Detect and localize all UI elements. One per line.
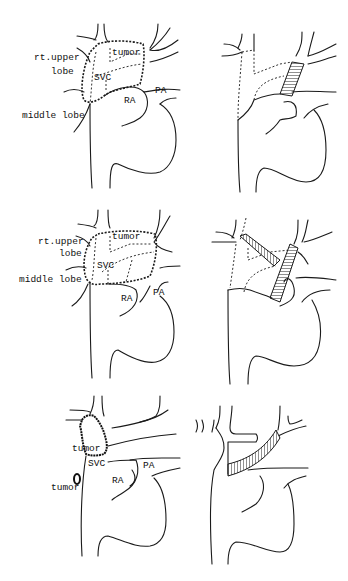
label-svc: SVC — [97, 261, 114, 271]
label-pa: PA — [143, 461, 154, 471]
row3-right-panel — [180, 380, 348, 581]
row1-right-reconstruction-drawing — [180, 0, 348, 200]
row1-left-panel: rt.upper lobe middle lobe tumor SVC RA P… — [0, 0, 180, 200]
label-pa: PA — [155, 86, 166, 96]
row1-right-panel — [180, 0, 348, 200]
label-lobe: lobe — [59, 249, 82, 259]
label-tumor-upper: tumor — [72, 444, 101, 454]
row3-right-reconstruction-drawing — [180, 380, 348, 581]
row1-left-anatomy-drawing — [0, 0, 180, 200]
row2-right-panel — [180, 190, 348, 390]
row2-left-panel: rt.upper lobe middle lobe tumor SVC RA P… — [0, 190, 180, 390]
label-rt-upper-lobe: rt.upper — [34, 53, 80, 63]
label-ra: RA — [124, 96, 135, 106]
row3-left-panel: tumor SVC RA PA tumor — [0, 380, 180, 581]
label-pa: PA — [153, 288, 164, 298]
row3-left-anatomy-drawing — [0, 380, 180, 581]
label-rt-upper-lobe: rt.upper — [38, 237, 84, 247]
label-tumor: tumor — [112, 232, 141, 242]
label-tumor-lower: tumor — [51, 483, 80, 493]
row2-right-reconstruction-drawing — [180, 190, 348, 390]
label-lobe: lobe — [51, 67, 74, 77]
label-svc: SVC — [94, 73, 111, 83]
label-ra: RA — [112, 476, 123, 486]
label-ra: RA — [121, 294, 132, 304]
label-svc: SVC — [88, 459, 105, 469]
label-middle-lobe: middle lobe — [22, 111, 85, 121]
label-tumor: tumor — [112, 48, 141, 58]
label-middle-lobe: middle lobe — [19, 275, 82, 285]
